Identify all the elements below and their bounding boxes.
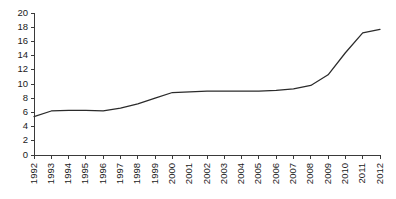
y-tick-label: 4 [23,120,28,131]
x-tick-label: 2007 [287,163,298,184]
x-tick-label: 2010 [339,163,350,184]
x-axis: 1992199319941995199619971998199920002001… [28,155,385,184]
y-tick-label: 2 [23,134,28,145]
x-tick-label: 1992 [28,163,39,184]
x-tick-label: 2004 [235,163,246,184]
x-tick-label: 2003 [218,163,229,184]
y-tick-label: 20 [17,7,28,18]
x-tick-label: 2000 [166,163,177,184]
y-tick-label: 6 [23,106,28,117]
x-tick-label: 2008 [304,163,315,184]
y-tick-label: 10 [17,78,28,89]
x-tick-label: 1997 [114,163,125,184]
y-tick-label: 16 [17,35,28,46]
line-chart: 02468101214161820 1992199319941995199619… [0,0,396,199]
y-tick-label: 14 [17,49,28,60]
y-tick-label: 8 [23,92,28,103]
x-tick-label: 2005 [252,163,263,184]
x-tick-label: 2006 [270,163,281,184]
series-line-1 [34,29,380,116]
x-tick-label: 2012 [374,163,385,184]
x-tick-label: 1999 [149,163,160,184]
y-tick-group: 02468101214161820 [17,7,34,160]
y-tick-label: 12 [17,63,28,74]
x-tick-label: 1996 [97,163,108,184]
y-axis: 02468101214161820 [17,7,34,160]
x-tick-label: 2002 [201,163,212,184]
x-tick-label: 2011 [356,163,367,183]
chart-canvas: 02468101214161820 1992199319941995199619… [0,0,396,199]
x-tick-group: 1992199319941995199619971998199920002001… [28,155,385,184]
x-tick-label: 2009 [322,163,333,184]
x-tick-label: 1994 [62,163,73,184]
y-tick-label: 18 [17,21,28,32]
x-tick-label: 1995 [79,163,90,184]
x-tick-label: 1993 [45,163,56,184]
data-series-group [34,29,380,116]
x-tick-label: 2001 [183,163,194,184]
x-tick-label: 1998 [131,163,142,184]
y-tick-label: 0 [23,149,28,160]
